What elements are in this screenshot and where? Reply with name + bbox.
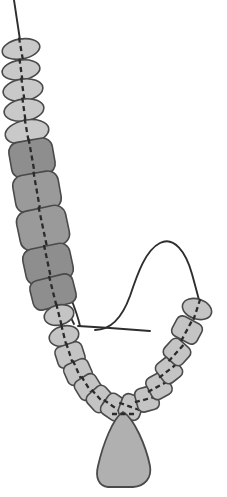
necklace-drawing-canvas xyxy=(0,0,227,497)
necklace-illustration: Beaded necklace threading diagram xyxy=(0,0,227,497)
